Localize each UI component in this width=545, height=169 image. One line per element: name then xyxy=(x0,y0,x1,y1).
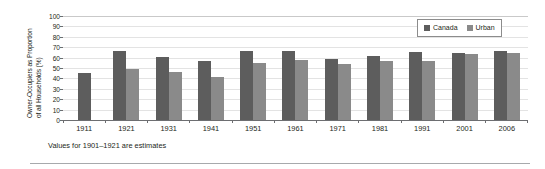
y-axis-tick-label: 80 xyxy=(53,33,60,40)
chart-legend: CanadaUrban xyxy=(417,19,502,37)
legend-entry-canada: Canada xyxy=(424,24,458,32)
bar-urban-1981 xyxy=(380,61,393,120)
x-axis-tick-label: 1951 xyxy=(232,124,274,133)
bar-group xyxy=(274,16,316,120)
legend-swatch-icon xyxy=(467,25,473,31)
x-axis-tick-label: 1981 xyxy=(359,124,401,133)
y-axis-tick-label: 60 xyxy=(53,54,60,61)
y-axis-tick-label: 40 xyxy=(53,75,60,82)
bar-canada-2001 xyxy=(452,53,465,120)
bar-canada-1961 xyxy=(282,51,295,120)
bar-group xyxy=(317,16,359,120)
x-axis-tick-label: 1941 xyxy=(190,124,232,133)
y-axis-title-line2: of all Households (%) xyxy=(35,57,44,118)
y-axis-title-line1: Owner-Occupiers as Proportion xyxy=(26,29,35,118)
x-axis-group: 1911 xyxy=(63,120,105,142)
bar-urban-1951 xyxy=(253,63,266,120)
x-axis-tick-label: 1991 xyxy=(401,124,443,133)
bar-group xyxy=(359,16,401,120)
x-axis-tick-mark xyxy=(443,120,444,123)
x-axis-group: 1971 xyxy=(317,120,359,142)
bar-canada-1931 xyxy=(156,57,169,120)
x-axis-tick-mark xyxy=(316,120,317,123)
x-axis-tick-label: 2006 xyxy=(486,124,528,133)
x-axis-tick-mark xyxy=(232,120,233,123)
x-axis-tick-label: 2001 xyxy=(443,124,485,133)
y-axis-tick-label: 50 xyxy=(53,65,60,72)
bar-urban-1991 xyxy=(422,61,435,120)
bar-canada-1921 xyxy=(113,51,126,120)
bar-urban-2001 xyxy=(465,54,478,120)
x-axis-tick-mark xyxy=(274,120,275,123)
x-axis-tick-mark xyxy=(485,120,486,123)
bottom-divider xyxy=(30,163,530,164)
chart-figure: Owner-Occupiers as Proportion of all Hou… xyxy=(0,0,545,169)
y-axis-tick-label: 0 xyxy=(56,117,60,124)
x-axis-group: 1921 xyxy=(105,120,147,142)
bar-canada-1991 xyxy=(409,52,422,120)
legend-label: Canada xyxy=(433,24,458,32)
x-axis-group: 1931 xyxy=(148,120,190,142)
x-axis-group: 1951 xyxy=(232,120,274,142)
x-axis-tick-label: 1961 xyxy=(274,124,316,133)
x-axis-group: 1991 xyxy=(401,120,443,142)
legend-entry-urban: Urban xyxy=(467,24,495,32)
bar-group xyxy=(148,16,190,120)
x-axis-tick-mark xyxy=(401,120,402,123)
bar-group xyxy=(232,16,274,120)
y-axis-tick-label: 70 xyxy=(53,44,60,51)
x-axis-tick-mark xyxy=(105,120,106,123)
y-axis-tick-label: 10 xyxy=(53,106,60,113)
bar-canada-1951 xyxy=(240,51,253,120)
bar-canada-1971 xyxy=(325,59,338,120)
legend-label: Urban xyxy=(476,24,495,32)
bar-urban-1961 xyxy=(295,60,308,120)
bar-group xyxy=(105,16,147,120)
bar-urban-1971 xyxy=(338,64,351,120)
x-axis: 1911192119311941195119611971198119912001… xyxy=(63,120,528,142)
y-axis-tick-label: 20 xyxy=(53,96,60,103)
bar-urban-2006 xyxy=(507,53,520,120)
x-axis-tick-label: 1971 xyxy=(317,124,359,133)
y-axis-tick-label: 100 xyxy=(49,13,60,20)
bar-urban-1921 xyxy=(126,69,139,120)
x-axis-tick-mark xyxy=(63,120,64,123)
bar-canada-1981 xyxy=(367,56,380,120)
bar-urban-1941 xyxy=(211,77,224,120)
y-axis-tick-label: 30 xyxy=(53,85,60,92)
bar-group xyxy=(190,16,232,120)
x-axis-tick-mark xyxy=(147,120,148,123)
bar-urban-1931 xyxy=(169,72,182,120)
x-axis-tick-mark xyxy=(527,120,528,123)
legend-swatch-icon xyxy=(424,25,430,31)
x-axis-group: 1941 xyxy=(190,120,232,142)
x-axis-group: 2006 xyxy=(486,120,528,142)
x-axis-tick-label: 1921 xyxy=(105,124,147,133)
bar-canada-2006 xyxy=(494,51,507,120)
chart-footnote: Values for 1901–1921 are estimates xyxy=(48,141,166,151)
x-axis-tick-mark xyxy=(358,120,359,123)
bar-group xyxy=(63,16,105,120)
x-axis-group: 2001 xyxy=(443,120,485,142)
x-axis-tick-label: 1931 xyxy=(148,124,190,133)
x-axis-tick-label: 1911 xyxy=(63,124,105,133)
y-axis-tick-label: 90 xyxy=(53,23,60,30)
x-axis-tick-mark xyxy=(189,120,190,123)
x-axis-group: 1981 xyxy=(359,120,401,142)
bar-canada-1941 xyxy=(198,61,211,120)
x-axis-group: 1961 xyxy=(274,120,316,142)
bar-canada-1911 xyxy=(78,73,91,120)
